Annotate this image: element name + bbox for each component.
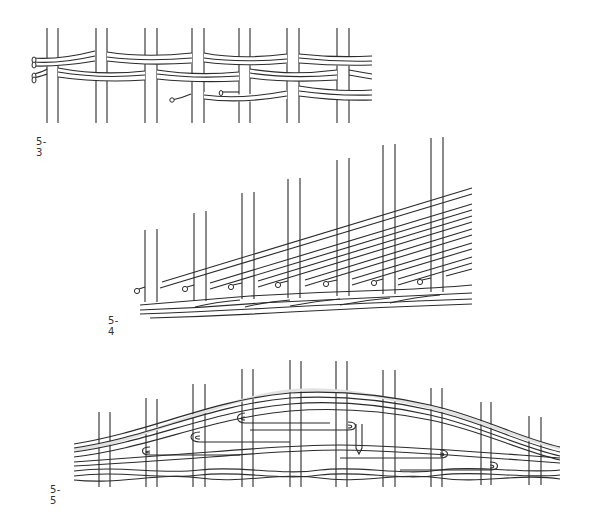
looped-weavers-5-5 <box>74 413 560 481</box>
figure-5-5-drawing <box>0 0 596 516</box>
figure-label-5-5: 5-5 <box>50 484 61 506</box>
arched-weavers-5-5 <box>74 390 560 460</box>
